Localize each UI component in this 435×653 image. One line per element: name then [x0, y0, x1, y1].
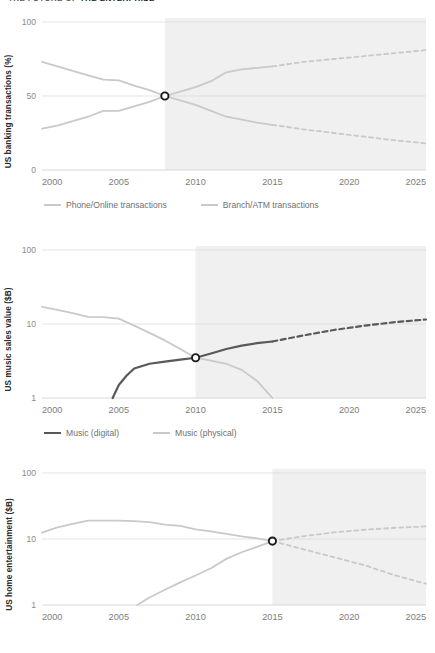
chart-music: US music sales value ($B) 11010020002005…: [0, 232, 435, 447]
legend-label: Music (digital): [66, 428, 119, 438]
x-tick-label: 2005: [109, 177, 129, 187]
chart-music-plot: 110100200020052010201520202025: [0, 232, 435, 427]
chart-banking: US banking transactions (%) 050100200020…: [0, 4, 435, 219]
y-tick-label: 10: [26, 534, 36, 544]
series-line: [137, 541, 272, 605]
x-tick-label: 2015: [262, 405, 282, 415]
x-tick-label: 2015: [262, 177, 282, 187]
page-title: THE FUTURE OF THE ENTERPRISE: [8, 0, 155, 3]
y-tick-label: 0: [31, 165, 36, 175]
page-title-strong: THE ENTERPRISE: [80, 0, 155, 3]
x-tick-label: 2000: [42, 405, 62, 415]
crossover-marker: [161, 92, 168, 99]
infographic-page: THE FUTURE OF THE ENTERPRISE US banking …: [0, 0, 435, 653]
x-tick-label: 2020: [339, 405, 359, 415]
x-tick-label: 2015: [262, 612, 282, 622]
y-tick-label: 100: [22, 17, 37, 27]
x-tick-label: 2000: [42, 177, 62, 187]
y-tick-label: 50: [26, 91, 36, 101]
chart-music-legend: Music (digital)Music (physical): [44, 428, 237, 438]
y-tick-label: 100: [22, 468, 37, 478]
forecast-band: [165, 18, 426, 170]
x-tick-label: 2020: [339, 177, 359, 187]
chart-banking-plot: 050100200020052010201520202025: [0, 4, 435, 199]
y-tick-label: 1: [31, 393, 36, 403]
page-title-prefix: THE FUTURE OF: [8, 0, 80, 3]
legend-swatch: [201, 204, 218, 206]
legend-label: Branch/ATM transactions: [223, 200, 319, 210]
x-tick-label: 2025: [406, 177, 426, 187]
legend-item: Branch/ATM transactions: [201, 200, 319, 210]
x-tick-label: 2025: [406, 612, 426, 622]
x-tick-label: 2010: [185, 177, 205, 187]
crossover-marker: [192, 354, 199, 361]
x-tick-label: 2025: [406, 405, 426, 415]
chart-home-entertainment-plot: 110100200020052010201520202025: [0, 455, 435, 650]
y-tick-label: 10: [26, 319, 36, 329]
legend-item: Music (physical): [153, 428, 237, 438]
legend-swatch: [153, 432, 170, 434]
legend-item: Music (digital): [44, 428, 119, 438]
crossover-marker: [269, 537, 276, 544]
legend-item: Phone/Online transactions: [44, 200, 167, 210]
y-tick-label: 1: [31, 600, 36, 610]
x-tick-label: 2000: [42, 612, 62, 622]
legend-swatch: [44, 432, 61, 434]
x-tick-label: 2005: [109, 612, 129, 622]
chart-banking-legend: Phone/Online transactionsBranch/ATM tran…: [44, 200, 319, 210]
series-line: [42, 521, 272, 541]
y-tick-label: 100: [22, 245, 37, 255]
chart-home-entertainment: US home entertainment ($B) 1101002000200…: [0, 455, 435, 653]
legend-label: Phone/Online transactions: [66, 200, 167, 210]
x-tick-label: 2010: [185, 612, 205, 622]
x-tick-label: 2010: [185, 405, 205, 415]
legend-label: Music (physical): [175, 428, 237, 438]
x-tick-label: 2020: [339, 612, 359, 622]
legend-swatch: [44, 204, 61, 206]
x-tick-label: 2005: [109, 405, 129, 415]
